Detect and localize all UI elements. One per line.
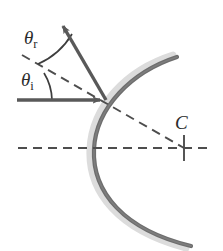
mirror-shadow (90, 55, 186, 248)
theta-r-subscript: r (33, 37, 37, 51)
angle-arc-reflection (38, 34, 72, 64)
theta-symbol: θ (24, 27, 33, 48)
angle-of-incidence-label: θi (21, 70, 34, 92)
theta-symbol: θ (21, 69, 30, 90)
angle-of-reflection-label: θr (24, 28, 38, 50)
concave-mirror-arc (94, 57, 191, 246)
optics-ray-diagram: θr θi C (0, 0, 223, 251)
center-of-curvature-label: C (175, 113, 188, 132)
reflected-ray (63, 26, 106, 100)
theta-i-subscript: i (30, 79, 33, 93)
angle-arc-incidence (44, 73, 52, 100)
